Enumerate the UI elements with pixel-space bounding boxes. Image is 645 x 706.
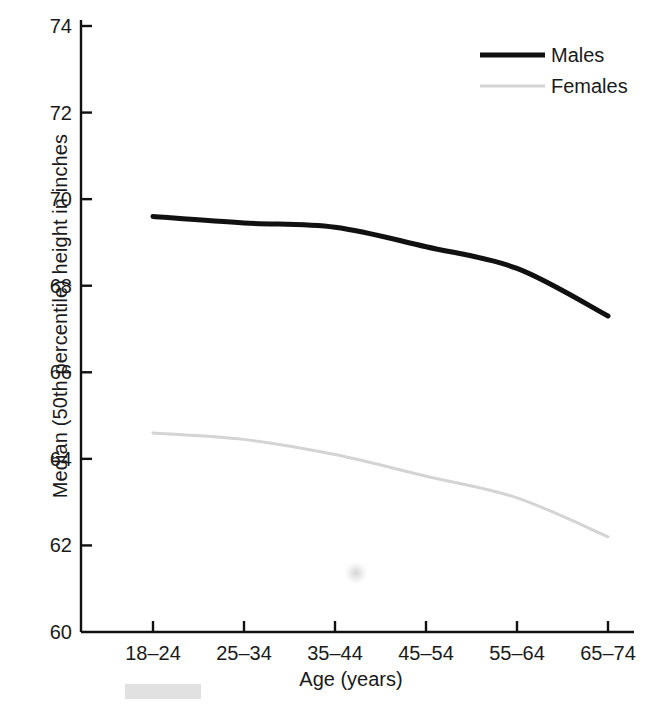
y-axis-tick-label: 74 (18, 16, 72, 36)
series-line-females (153, 433, 608, 537)
scan-smudge (345, 562, 367, 584)
y-axis-tick-label: 70 (18, 189, 72, 209)
y-axis-tick-label: 62 (18, 535, 72, 555)
scan-artifact-bar (125, 684, 201, 699)
x-axis-ticks (153, 621, 608, 632)
plot-area (0, 0, 645, 706)
y-axis-ticks (81, 26, 92, 545)
series-line-males (153, 216, 608, 316)
y-axis-tick-label: 72 (18, 103, 72, 123)
y-axis-tick-label: 66 (18, 362, 72, 382)
chart-figure: Median (50th percentile) height in inche… (0, 0, 645, 706)
y-axis-tick-label: 68 (18, 276, 72, 296)
y-axis-tick-label: 60 (18, 622, 72, 642)
legend-label-females: Females (551, 76, 628, 96)
x-axis-tick-label: 65–74 (553, 643, 645, 663)
y-axis-tick-label: 64 (18, 449, 72, 469)
legend-label-males: Males (551, 45, 604, 65)
legend-swatch-group (480, 55, 545, 86)
data-series-group (153, 216, 608, 536)
